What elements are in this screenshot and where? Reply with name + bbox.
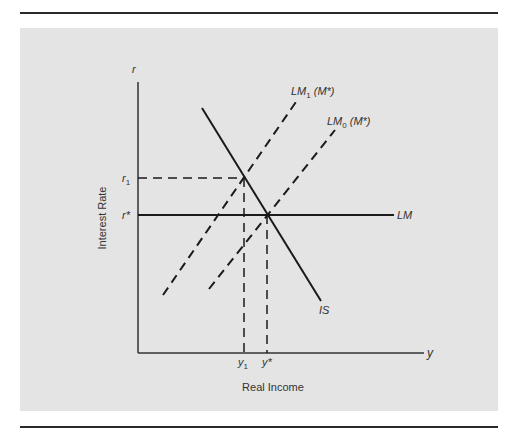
y-axis-symbol: r — [132, 63, 137, 75]
lm0-label: LM0(M*) — [327, 115, 371, 130]
lm1-label: LM1(M*) — [291, 85, 335, 100]
islm-diagram: r y Interest Rate Real Income r1 r* y1 y… — [0, 0, 524, 435]
x-axis-symbol: y — [426, 346, 434, 360]
lm-label: LM — [397, 209, 413, 221]
y-axis-title: Interest Rate — [96, 187, 108, 250]
bottom-rule — [20, 426, 498, 428]
y1-tick-label: y1 — [237, 356, 249, 371]
is-label: IS — [319, 304, 330, 316]
is-curve — [202, 108, 321, 301]
ystar-tick-label: y* — [261, 356, 273, 368]
x-axis-title: Real Income — [242, 381, 304, 393]
r1-tick-label: r1 — [122, 172, 131, 187]
rstar-tick-label: r* — [122, 209, 131, 221]
lm1-curve — [163, 99, 298, 295]
lm0-curve — [209, 130, 335, 289]
